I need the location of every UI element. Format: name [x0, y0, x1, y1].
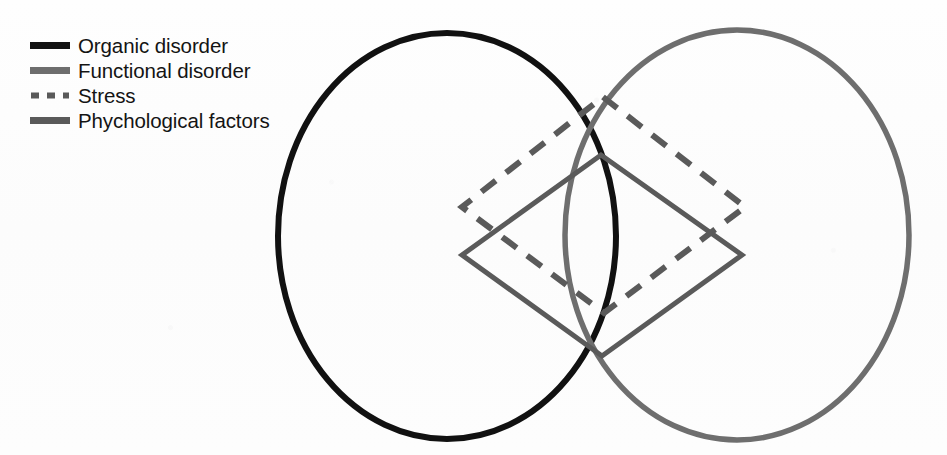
solid-line-swatch-icon	[28, 33, 72, 58]
dashed-line-swatch-icon	[28, 83, 72, 108]
solid-line-swatch-icon	[28, 108, 72, 133]
diagram-figure: Organic disorder Functional disorder Str…	[0, 0, 947, 455]
legend-label-stress: Stress	[72, 85, 136, 107]
solid-line-swatch-icon	[28, 58, 72, 83]
legend-item-organic-disorder: Organic disorder	[28, 33, 318, 58]
legend: Organic disorder Functional disorder Str…	[28, 33, 318, 133]
legend-label-phychological-factors: Phychological factors	[72, 110, 270, 132]
legend-item-phychological-factors: Phychological factors	[28, 108, 318, 133]
legend-label-functional-disorder: Functional disorder	[72, 60, 250, 82]
legend-label-organic-disorder: Organic disorder	[72, 35, 228, 57]
legend-item-functional-disorder: Functional disorder	[28, 58, 318, 83]
legend-item-stress: Stress	[28, 83, 318, 108]
phychological-factors-diamond	[462, 155, 742, 356]
